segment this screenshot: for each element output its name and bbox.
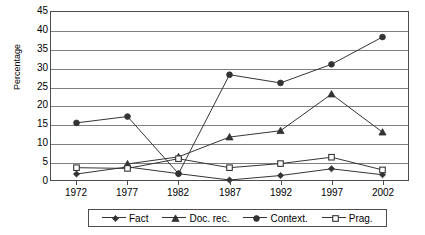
legend-label: Fact [129,213,148,224]
data-point-marker [125,166,131,172]
x-axis-tick-label: 1992 [258,187,304,198]
series-line [76,37,382,174]
legend-label: Doc. rec. [189,213,229,224]
x-axis-tick-label: 2002 [360,187,406,198]
x-axis-tick [383,181,384,185]
chart-legend: FactDoc. rec.Context.Prag. [88,209,387,227]
legend-marker-square-open-icon [322,213,346,223]
y-axis-tick-label: 30 [37,63,48,73]
y-axis-tick-labels: 454035302520151050 [18,0,48,185]
legend-item-doc-rec[interactable]: Doc. rec. [162,213,229,224]
data-point-marker [277,172,283,178]
x-axis-tick-label: 1977 [104,187,150,198]
legend-marker-diamond-icon [102,213,126,223]
data-point-marker [328,91,335,97]
x-axis-tick-label: 1997 [309,187,355,198]
data-point-marker [380,167,386,173]
line-chart: Percentage 454035302520151050 1972197719… [0,0,425,235]
legend-item-context[interactable]: Context. [243,213,307,224]
legend-item-fact[interactable]: Fact [102,213,148,224]
y-axis-tick-label: 45 [37,6,48,16]
legend-label: Context. [270,213,307,224]
y-axis-tick-label: 10 [37,138,48,148]
y-axis-tick-label: 0 [42,176,48,186]
data-point-marker [277,127,284,133]
x-axis-tick [230,181,231,185]
x-axis-tick [332,181,333,185]
data-point-marker [380,34,386,40]
data-point-marker [227,165,233,171]
x-axis-tick-label: 1982 [155,187,201,198]
y-axis-tick-label: 25 [37,82,48,92]
series-line [128,94,383,164]
y-axis-tick-label: 5 [42,157,48,167]
data-point-marker [74,120,80,126]
data-point-marker [328,166,334,172]
data-point-marker [74,165,80,171]
x-axis: 1972197719821987199219972002 [50,181,409,205]
series-context [74,34,386,176]
data-point-marker [278,80,284,86]
data-point-marker [278,161,284,167]
x-axis-tick [76,181,77,185]
y-axis-tick-label: 35 [37,44,48,54]
x-axis-tick-label: 1987 [207,187,253,198]
data-point-marker [329,61,335,67]
data-point-marker [379,129,386,135]
data-point-marker [176,156,182,162]
data-point-marker [73,171,79,177]
data-point-marker [227,72,233,78]
series-doc-rec [124,91,386,167]
legend-marker-triangle-icon [162,213,186,223]
legend-item-prag[interactable]: Prag. [322,213,373,224]
data-point-marker [176,171,182,177]
series-layer [51,12,408,180]
x-axis-tick [281,181,282,185]
y-axis-tick-label: 20 [37,100,48,110]
y-axis-tick-label: 15 [37,119,48,129]
x-axis-tick [127,181,128,185]
x-axis-tick-label: 1972 [53,187,99,198]
data-point-marker [329,154,335,160]
plot-area [50,11,409,181]
y-axis-tick-label: 40 [37,25,48,35]
legend-marker-circle-icon [243,213,267,223]
data-point-marker [125,114,131,120]
x-axis-tick [178,181,179,185]
legend-label: Prag. [349,213,373,224]
